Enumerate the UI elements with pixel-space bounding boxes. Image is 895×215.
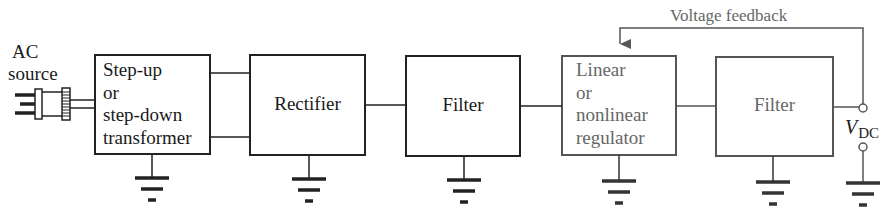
vdc-subscript: DC bbox=[858, 125, 879, 141]
ground-icon bbox=[602, 155, 636, 203]
filter-1-label-line: Filter bbox=[406, 94, 520, 117]
regulator-label-line: Linear bbox=[576, 59, 648, 82]
regulator-label-line: nonlinear bbox=[576, 104, 648, 127]
regulator-label: Linear or nonlinear regulator bbox=[576, 59, 648, 149]
transformer-label: Step-up or step-down transformer bbox=[103, 59, 192, 149]
rectifier-label-line: Rectifier bbox=[250, 93, 365, 116]
vdc-symbol: V bbox=[845, 116, 857, 138]
transformer-label-line: Step-up bbox=[103, 59, 192, 82]
transformer-label-line: transformer bbox=[103, 127, 192, 150]
output-terminal-negative bbox=[859, 143, 867, 151]
filter-2-label: Filter bbox=[716, 94, 833, 117]
filter-2-label-line: Filter bbox=[716, 94, 833, 117]
ground-icon bbox=[292, 155, 326, 201]
filter-1-label: Filter bbox=[406, 94, 520, 117]
rectifier-label: Rectifier bbox=[250, 93, 365, 116]
output-terminal-positive bbox=[859, 104, 867, 112]
ac-source-label-line1: AC bbox=[8, 41, 58, 63]
ac-source-label-line2: source bbox=[8, 63, 58, 85]
feedback-path bbox=[620, 28, 863, 104]
ground-icon bbox=[135, 154, 169, 200]
ground-icon bbox=[756, 156, 790, 204]
transformer-label-line: step-down bbox=[103, 104, 192, 127]
regulator-label-line: or bbox=[576, 82, 648, 105]
ac-source-label: AC source bbox=[8, 41, 58, 85]
ground-icon bbox=[447, 156, 481, 202]
transformer-label-line: or bbox=[103, 82, 192, 105]
ground-icon bbox=[846, 183, 880, 205]
vdc-label: VDC bbox=[845, 117, 879, 137]
regulator-label-line: regulator bbox=[576, 127, 648, 150]
voltage-feedback-label: Voltage feedback bbox=[670, 7, 787, 24]
ac-plug-icon bbox=[15, 88, 95, 120]
